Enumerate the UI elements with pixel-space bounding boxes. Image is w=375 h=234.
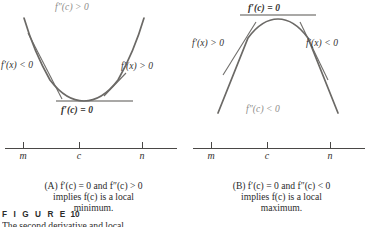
panel-a-caption-line-1: (A) f′(c) = 0 and f″(c) > 0 [0,180,187,191]
figure-number-value: 10 [70,210,79,219]
panel-b-plot: f′(c) = 0 f′(x) > 0 f′(x) < 0 f″(c) < 0 [188,0,375,130]
panel-a-label-left-derivative: f′(x) < 0 [1,60,33,70]
panel-a-tick-c [79,142,80,149]
panel-b-local-maximum: f′(c) = 0 f′(x) > 0 f′(x) < 0 f″(c) < 0 … [188,0,375,234]
panel-a-caption: (A) f′(c) = 0 and f″(c) > 0 implies f(c)… [0,180,187,214]
panel-b-number-line: m c n [188,136,375,166]
panel-b-label-right-derivative: f′(x) < 0 [306,38,338,48]
panel-a-caption-line-2: implies f(c) is a local [0,191,187,202]
panel-a-tick-label-n: n [140,150,145,161]
left-tangent-segment [223,22,256,75]
panel-b-tick-m [211,142,212,149]
figure-subtitle: The second derivative and local [2,220,202,227]
figure-number-word: F I G U R E [2,210,67,219]
panel-b-axis-line [193,148,365,149]
panel-a-tick-label-c: c [77,150,81,161]
panel-b-caption: (B) f′(c) = 0 and f″(c) < 0 implies f(c)… [188,180,375,214]
panel-b-caption-line-3: maximum. [188,202,375,213]
panel-a-tick-n [142,142,143,149]
panel-b-caption-line-1: (B) f′(c) = 0 and f″(c) < 0 [188,180,375,191]
panel-b-label-second-derivative: f″(c) < 0 [246,104,280,114]
figure-number-title: F I G U R E10 [2,210,202,219]
panel-a-local-minimum: f″(c) > 0 f′(x) < 0 f′(x) > 0 f′(c) = 0 … [0,0,187,234]
figure-number-block: F I G U R E10 The second derivative and … [2,210,202,227]
panel-b-tick-label-c: c [265,150,269,161]
figure-10: f″(c) > 0 f′(x) < 0 f′(x) > 0 f′(c) = 0 … [0,0,375,234]
panel-a-axis-line [5,148,177,149]
panel-a-number-line: m c n [0,136,187,166]
panel-b-label-left-derivative: f′(x) > 0 [192,38,224,48]
panel-b-tick-c [267,142,268,149]
panel-a-tick-m [23,142,24,149]
panel-a-tick-label-m: m [19,150,26,161]
panel-a-label-second-derivative: f″(c) > 0 [55,2,89,12]
panel-a-label-right-derivative: f′(x) > 0 [121,61,153,71]
panel-b-label-critical-point: f′(c) = 0 [248,3,280,13]
panel-b-tick-n [330,142,331,149]
panel-a-label-critical-point: f′(c) = 0 [61,105,93,115]
panel-b-caption-line-2: implies f(c) is a local [188,191,375,202]
maximum-curve-svg [188,0,375,130]
panel-b-tick-label-m: m [207,150,214,161]
panel-b-tick-label-n: n [328,150,333,161]
parabola-maximum [218,19,338,113]
panel-a-plot: f″(c) > 0 f′(x) < 0 f′(x) > 0 f′(c) = 0 [0,0,187,130]
